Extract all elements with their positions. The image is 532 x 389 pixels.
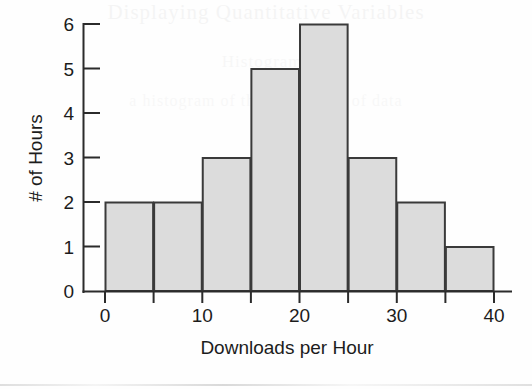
histogram-figure: Displaying Quantitative Variables Histog… (0, 0, 532, 389)
x-axis-tick-label: 30 (386, 305, 407, 326)
y-axis-ticks-group (84, 24, 100, 247)
y-axis-tick-label: 6 (63, 14, 74, 35)
y-axis-tick-label: 1 (63, 237, 74, 258)
histogram-plot: 0123456 010203040 Downloads per Hour # o… (0, 0, 532, 389)
x-axis-tick-label: 40 (483, 305, 504, 326)
x-axis-tick-label: 0 (100, 305, 111, 326)
y-axis-tick-labels-group: 0123456 (63, 14, 74, 302)
histogram-bar (251, 69, 299, 291)
histogram-bar (106, 203, 154, 292)
x-axis-ticks-group (105, 292, 494, 303)
histogram-bar (446, 247, 494, 291)
histogram-bar (349, 158, 397, 291)
y-axis-tick-label: 3 (63, 148, 74, 169)
y-axis-title: # of Hours (25, 114, 46, 202)
x-axis-tick-label: 20 (289, 305, 310, 326)
histogram-bar (154, 203, 202, 292)
bars-group (106, 25, 494, 292)
histogram-bar (397, 203, 445, 292)
x-axis-tick-labels-group: 010203040 (100, 305, 505, 326)
y-axis-tick-label: 0 (63, 281, 74, 302)
x-axis-title: Downloads per Hour (200, 337, 374, 358)
x-axis-tick-label: 10 (192, 305, 213, 326)
y-axis-tick-label: 4 (63, 103, 74, 124)
y-axis-tick-label: 2 (63, 192, 74, 213)
histogram-bar (203, 158, 251, 291)
histogram-bar (300, 25, 348, 292)
y-axis-tick-label: 5 (63, 59, 74, 80)
